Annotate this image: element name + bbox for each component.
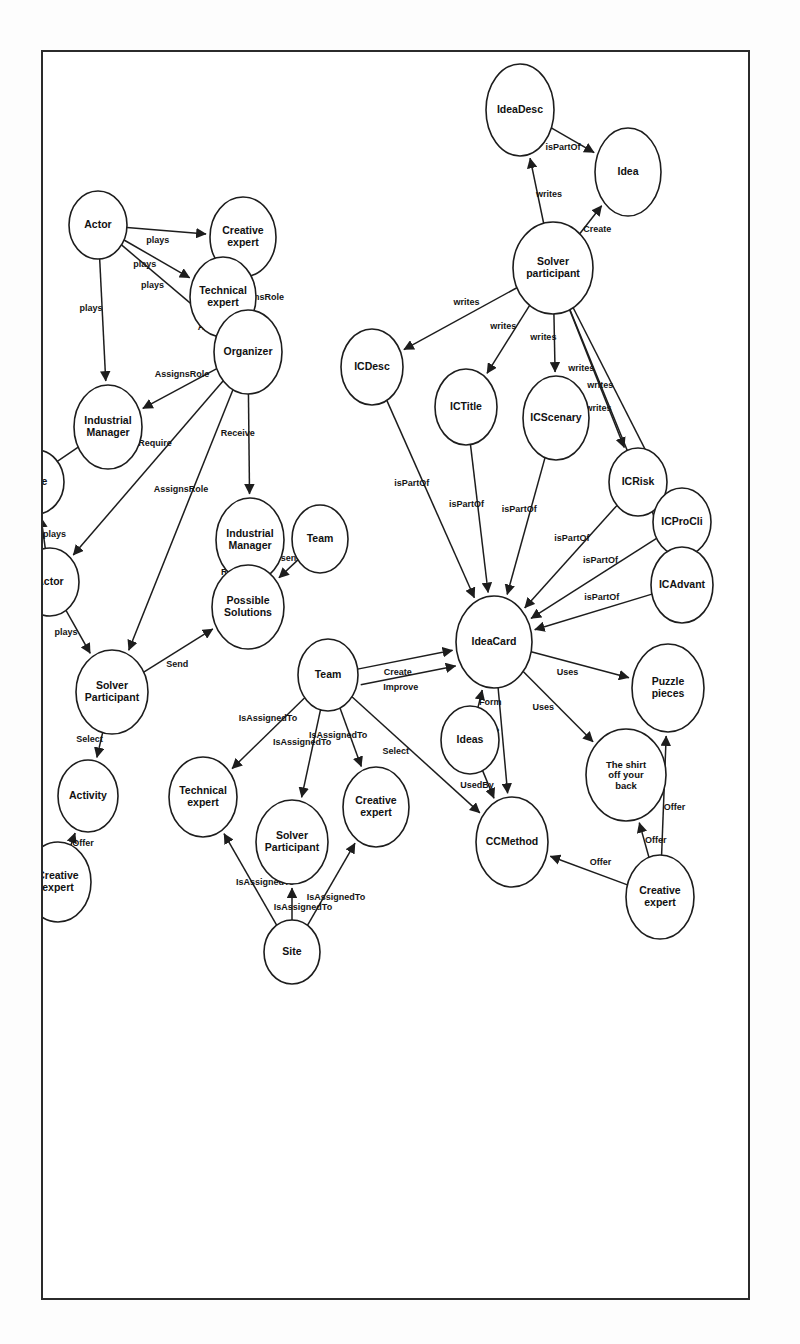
edge-label: isPartOf (394, 478, 430, 488)
graph-edge (248, 394, 249, 494)
node-label: Idea (617, 165, 638, 177)
graph-edge (100, 259, 106, 381)
graph-node[interactable]: Team (298, 639, 358, 711)
rotated-canvas: CreatewritesisPartOfwriteswriteswriteswr… (43, 52, 748, 1298)
edge-label: Offer (664, 802, 686, 812)
graph-node[interactable]: Site (264, 920, 320, 984)
node-label: Actor (43, 575, 64, 587)
node-label: Creativeexpert (639, 884, 681, 908)
graph-edge (302, 710, 321, 797)
edge-label: writes (535, 189, 562, 199)
graph-node[interactable]: Technicalexpert (169, 757, 237, 837)
graph-node[interactable]: Ideas (441, 706, 499, 774)
edge-label: Offer (645, 835, 667, 845)
graph-edge (127, 227, 206, 234)
edge-label: plays (55, 627, 78, 637)
node-label: Organizer (223, 345, 272, 357)
edge-label: Improve (383, 682, 418, 692)
edge-label: IsAssignedTo (239, 713, 298, 723)
graph-node[interactable]: ICProCli (653, 488, 711, 556)
node-label: ICRisk (622, 475, 655, 487)
edge-label: writes (567, 363, 594, 373)
node-label: IndustrialManager (226, 527, 273, 551)
edge-label: IsAssignedTo (273, 737, 332, 747)
graph-node[interactable]: Idea (595, 128, 661, 216)
edge-label: UsedBy (460, 780, 494, 790)
graph-edge (232, 698, 305, 769)
edge-label: Create (583, 224, 611, 234)
node-label: Creativeexpert (355, 794, 397, 818)
graph-node[interactable]: SolverParticipant (76, 650, 148, 734)
graph-node[interactable]: IndustrialManager (74, 385, 142, 469)
graph-node[interactable]: Puzzlepieces (632, 644, 704, 732)
graph-edge (487, 305, 530, 373)
node-label: PossibleSolutions (224, 594, 272, 618)
graph-edge (531, 652, 629, 678)
node-label: Actor (84, 218, 111, 230)
edge-label: isPartOf (502, 504, 538, 514)
graph-edge (507, 458, 545, 595)
edge-label: IsAssignedTo (274, 902, 333, 912)
edge-label: Send (166, 659, 188, 669)
edge-label: writes (452, 297, 479, 307)
edge-label: isPartOf (584, 592, 620, 602)
node-label: IndustrialManager (84, 414, 131, 438)
node-label: Ideas (457, 733, 484, 745)
node-label: Role (43, 475, 48, 487)
graph-edge (470, 445, 488, 593)
node-label: ICTitle (450, 400, 482, 412)
figure-page: CreatewritesisPartOfwriteswriteswriteswr… (0, 0, 800, 1344)
graph-node[interactable]: Activity (58, 760, 118, 832)
node-label: IdeaDesc (497, 103, 543, 115)
knowledge-graph-svg: CreatewritesisPartOfwriteswriteswriteswr… (43, 52, 748, 1298)
node-label: ICScenary (530, 411, 582, 423)
node-label: Team (315, 668, 342, 680)
edge-label: plays (43, 529, 66, 539)
node-label: IdeaCard (472, 635, 517, 647)
graph-node[interactable]: Team (292, 505, 348, 573)
edge-label: isPartOf (545, 142, 581, 152)
edge-label: plays (146, 235, 169, 245)
graph-node[interactable]: Organizer (214, 310, 282, 394)
node-label: ICDesc (354, 360, 390, 372)
graph-node[interactable]: Creativeexpert (43, 842, 91, 922)
graph-node[interactable]: Solverparticipant (513, 222, 593, 314)
node-label: Activity (69, 789, 107, 801)
edge-label: Select (382, 746, 409, 756)
node-label: Site (282, 945, 301, 957)
graph-node[interactable]: Actor (69, 191, 127, 259)
graph-node[interactable]: IdeaCard (456, 596, 532, 688)
edge-label: Form (479, 697, 502, 707)
graph-node[interactable]: ICAdvant (651, 547, 713, 623)
node-label: CCMethod (486, 835, 539, 847)
edge-label: Offer (72, 838, 94, 848)
graph-node[interactable]: Actor (43, 548, 79, 616)
edge-label: writes (489, 321, 516, 331)
graph-node[interactable]: SolverParticipant (256, 800, 328, 884)
graph-node[interactable]: Creativeexpert (343, 767, 409, 847)
edge-label: Require (138, 438, 172, 448)
graph-node[interactable]: PossibleSolutions (212, 565, 284, 649)
graph-node[interactable]: Creativeexpert (626, 855, 694, 939)
graph-node[interactable]: ICScenary (523, 376, 589, 460)
graph-node[interactable]: ICTitle (435, 369, 497, 445)
nodes-layer: IdeaIdeaDescSolverparticipantICScenaryIC… (43, 64, 713, 984)
graph-node[interactable]: IdeaDesc (486, 64, 554, 156)
edge-label: Offer (590, 857, 612, 867)
edge-label: plays (141, 280, 164, 290)
edge-label: plays (80, 303, 103, 313)
edge-label: isPartOf (583, 555, 619, 565)
edge-label: AssignsRole (154, 484, 209, 494)
edge-label: Select (76, 734, 103, 744)
diagram-frame: CreatewritesisPartOfwriteswriteswriteswr… (41, 50, 750, 1300)
node-label: Creativeexpert (222, 224, 264, 248)
graph-node[interactable]: CCMethod (476, 797, 548, 887)
edge-label: isPartOf (449, 499, 485, 509)
graph-node[interactable]: ICDesc (341, 329, 403, 405)
graph-edge (554, 314, 555, 372)
edge-label: writes (529, 332, 556, 342)
graph-node[interactable]: The shirtoff yourback (586, 729, 666, 821)
node-label: ICAdvant (659, 578, 706, 590)
node-label: Team (307, 532, 334, 544)
edge-label: Receive (221, 428, 255, 438)
